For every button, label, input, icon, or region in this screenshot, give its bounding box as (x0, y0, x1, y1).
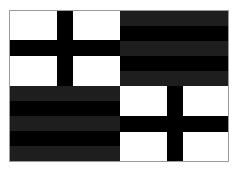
quadrant-bottom-left-stripes (10, 86, 120, 161)
quadrant-top-right-stripes (120, 11, 228, 86)
stripe (120, 26, 228, 41)
quadrant-bottom-right-cross (120, 86, 228, 161)
stripe (10, 101, 120, 116)
stripe (10, 131, 120, 146)
stripe (120, 11, 228, 26)
cross-horizontal-bar (10, 40, 120, 56)
stripe (120, 41, 228, 56)
stripe (120, 56, 228, 71)
stripe (10, 86, 120, 101)
stripe (10, 146, 120, 161)
quadrant-top-left-cross (10, 11, 120, 86)
stripe (120, 71, 228, 86)
pattern-grid (10, 11, 228, 161)
stripe (10, 116, 120, 131)
cross-horizontal-bar (120, 116, 228, 132)
